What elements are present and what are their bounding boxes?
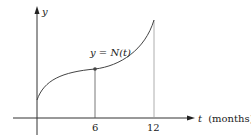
x-axis-arrow-icon xyxy=(187,116,195,121)
x-axis-label: t (months) xyxy=(198,113,251,124)
curve-n-of-t xyxy=(37,20,154,100)
curve-label: y = N(t) xyxy=(89,47,131,58)
x-tick-6: 6 xyxy=(92,122,98,133)
inflection-point-marker xyxy=(93,67,97,71)
x-axis-unit: (months) xyxy=(208,113,251,124)
x-tick-12: 12 xyxy=(147,122,160,133)
y-axis-label: y xyxy=(41,6,48,17)
x-axis-variable: t xyxy=(198,113,203,124)
chart: y t (months) 6 12 y = N(t) xyxy=(0,0,251,140)
y-axis-arrow-icon xyxy=(35,6,40,14)
